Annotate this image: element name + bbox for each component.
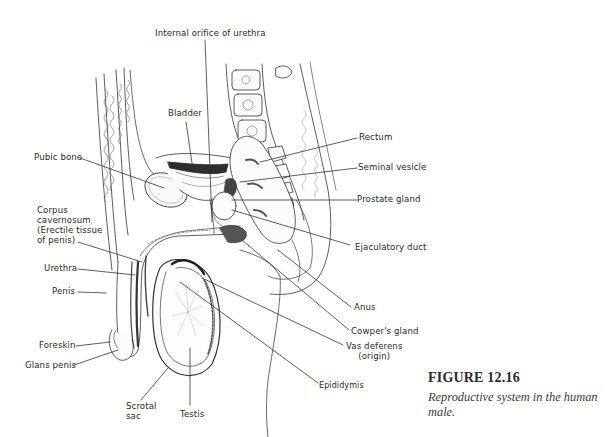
label-prostate-gland: Prostate gland xyxy=(357,194,421,204)
leader-vas-deferens xyxy=(202,278,343,345)
leader-corpus xyxy=(78,242,142,262)
label-ejaculatory-duct: Ejaculatory duct xyxy=(355,242,426,252)
label-scrotal-line-2: sac xyxy=(126,411,157,421)
label-rectum: Rectum xyxy=(359,132,392,142)
label-seminal-vesicle: Seminal vesicle xyxy=(358,162,426,172)
label-vas-deferens: Vas deferens (origin) xyxy=(346,341,403,361)
label-internal-orifice: Internal orifice of urethra xyxy=(155,28,266,38)
anatomy-figure: Internal orifice of urethra Bladder Pubi… xyxy=(0,0,611,437)
label-pubic-bone: Pubic bone xyxy=(34,152,82,162)
leader-urethra xyxy=(78,269,135,275)
scrotum-testis xyxy=(153,260,220,376)
figure-caption: Reproductive system in the human male. xyxy=(428,390,611,420)
label-penis: Penis xyxy=(52,286,75,296)
leader-foreskin xyxy=(76,342,110,346)
leader-penis xyxy=(78,292,106,293)
label-glans-penis: Glans penis xyxy=(25,360,76,370)
label-epididymis: Epididymis xyxy=(319,381,364,391)
label-vas-line-1: Vas deferens xyxy=(346,341,403,351)
label-corpus-line-2: cavernosum xyxy=(37,215,102,225)
label-vas-line-2: (origin) xyxy=(346,351,403,361)
leader-glans xyxy=(74,350,118,365)
label-corpus-line-4: of penis) xyxy=(37,235,102,245)
label-urethra: Urethra xyxy=(44,263,77,273)
leader-scrotal-sac xyxy=(141,368,168,400)
label-corpus-line-3: (Erectile tissue xyxy=(37,225,102,235)
label-bladder: Bladder xyxy=(168,108,202,118)
label-foreskin: Foreskin xyxy=(39,340,76,350)
label-corpus-line-1: Corpus xyxy=(37,205,102,215)
label-anus: Anus xyxy=(354,302,376,312)
leader-cowpers xyxy=(242,240,349,330)
label-corpus-cavernosum: Corpus cavernosum (Erectile tissue of pe… xyxy=(37,205,102,245)
label-scrotal-sac: Scrotal sac xyxy=(126,401,157,421)
label-scrotal-line-1: Scrotal xyxy=(126,401,157,411)
label-testis: Testis xyxy=(180,409,204,419)
figure-number: FIGURE 12.16 xyxy=(428,370,520,386)
label-cowpers-gland: Cowper's gland xyxy=(351,326,419,336)
